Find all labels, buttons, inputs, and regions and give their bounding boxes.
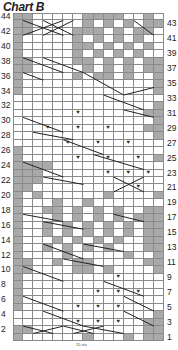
shaded-cell [23, 170, 33, 177]
chart-cell [134, 117, 144, 124]
chart-cell [94, 229, 104, 236]
chart-cell [134, 192, 144, 199]
chart-cell [94, 244, 104, 251]
shaded-cell [154, 237, 164, 244]
chart-cell [154, 50, 164, 57]
shaded-cell [144, 13, 154, 20]
chart-cell [43, 199, 53, 206]
shaded-cell [83, 266, 93, 273]
chart-cell [33, 252, 43, 259]
chart-cell [73, 289, 83, 296]
chart-cell [23, 117, 33, 124]
shaded-cell [23, 28, 33, 35]
shaded-cell [94, 35, 104, 42]
chart-cell [114, 326, 124, 333]
chart-cell [63, 192, 73, 199]
row-number-label: 32 [1, 100, 10, 110]
chart-cell [114, 73, 124, 80]
chart-cell [134, 125, 144, 132]
shaded-cell [23, 162, 33, 169]
chart-cell [53, 326, 63, 333]
chart-cell [13, 117, 23, 124]
chart-cell [114, 222, 124, 229]
chart-cell [23, 132, 33, 139]
chart-cell [134, 244, 144, 251]
chart-cell [94, 65, 104, 72]
chart-cell [94, 43, 104, 50]
chart-cell [83, 296, 93, 303]
shaded-cell [144, 244, 154, 251]
chart-cell [63, 237, 73, 244]
chart-cell [104, 110, 114, 117]
row-number-label: 33 [167, 93, 176, 103]
chart-cell [53, 311, 63, 318]
chart-cell [13, 125, 23, 132]
chart-cell: ♥ [114, 274, 124, 281]
shaded-cell [124, 43, 134, 50]
row-number-label: 14 [1, 235, 10, 245]
chart-cell [134, 132, 144, 139]
shaded-cell [23, 259, 33, 266]
shaded-cell [13, 326, 23, 333]
chart-cell [83, 95, 93, 102]
chart-cell [63, 319, 73, 326]
shaded-cell [13, 184, 23, 191]
chart-cell [33, 214, 43, 221]
shaded-cell [23, 20, 33, 27]
chart-cell [73, 88, 83, 95]
chart-cell [83, 155, 93, 162]
chart-cell [73, 80, 83, 87]
shaded-cell [154, 334, 164, 341]
chart-cell: ♥ [94, 319, 104, 326]
row-number-label: 27 [167, 138, 176, 148]
shaded-cell [154, 192, 164, 199]
chart-cell [83, 274, 93, 281]
chart-cell [43, 326, 53, 333]
chart-cell [144, 266, 154, 273]
shaded-cell [53, 237, 63, 244]
row-number-label: 30 [1, 115, 10, 125]
shaded-cell [23, 177, 33, 184]
chart-cell [94, 80, 104, 87]
shaded-cell [83, 199, 93, 206]
chart-cell [83, 214, 93, 221]
row-number-label: 31 [167, 108, 176, 118]
shaded-cell [13, 207, 23, 214]
chart-cell [134, 88, 144, 95]
row-number-label: 1 [167, 332, 172, 342]
chart-cell [23, 50, 33, 57]
shaded-cell [144, 20, 154, 27]
chart-cell [43, 274, 53, 281]
row-number-label: 16 [1, 220, 10, 230]
shaded-cell [144, 65, 154, 72]
shaded-cell [13, 43, 23, 50]
shaded-cell [134, 50, 144, 57]
chart-cell [94, 184, 104, 191]
chart-cell [154, 147, 164, 154]
shaded-cell [63, 244, 73, 251]
shaded-cell [33, 192, 43, 199]
chart-cell [53, 80, 63, 87]
shaded-cell [73, 28, 83, 35]
chart-cell [23, 102, 33, 109]
shaded-cell [114, 28, 124, 35]
shaded-cell [23, 266, 33, 273]
chart-cell [144, 102, 154, 109]
chart-cell [144, 199, 154, 206]
chart-cell [114, 140, 124, 147]
chart-cell [83, 117, 93, 124]
row-number-label: 12 [1, 250, 10, 260]
shaded-cell [13, 274, 23, 281]
chart-cell [73, 95, 83, 102]
purl-heart-icon: ♥ [134, 154, 143, 161]
chart-cell [124, 155, 134, 162]
shaded-cell [154, 229, 164, 236]
chart-cell [83, 80, 93, 87]
chart-cell [73, 334, 83, 341]
chart-cell [73, 222, 83, 229]
shaded-cell [124, 222, 134, 229]
shaded-cell [13, 35, 23, 42]
chart-cell [63, 184, 73, 191]
chart-cell [43, 13, 53, 20]
chart-cell: ♥ [124, 170, 134, 177]
